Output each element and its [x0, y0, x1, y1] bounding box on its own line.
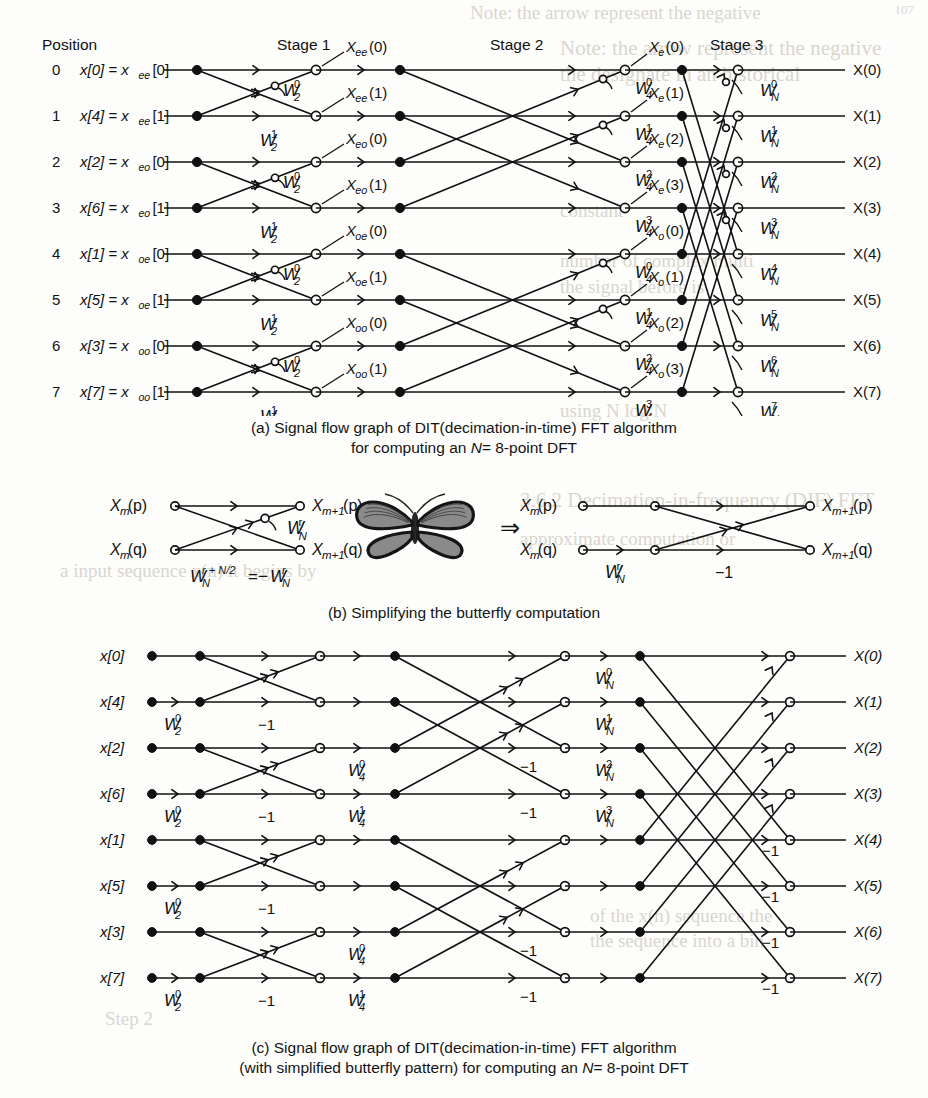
- butterfly-right-input-bottom: Xm(q): [519, 541, 557, 561]
- output-label: X(7): [853, 383, 881, 400]
- twiddle-subscript: 2: [293, 275, 300, 287]
- figure-b-caption: (b) Simplifying the butterfly computatio…: [0, 603, 928, 623]
- figure-c-minus-one: −1: [762, 980, 779, 997]
- twiddle-subscript: 4: [359, 1001, 365, 1013]
- stage3-twiddle-label: WN5: [760, 308, 779, 333]
- twiddle-superscript: 0: [294, 354, 300, 366]
- argument: (0): [369, 222, 387, 239]
- twiddle-superscript: 1: [271, 312, 277, 324]
- argument: (1): [369, 176, 387, 193]
- output-label: X(3): [853, 199, 881, 216]
- input-subscript: oo: [138, 391, 150, 403]
- stage3-twiddle-label: WN6: [760, 354, 779, 379]
- figure-c-output-label: X(4): [853, 831, 882, 848]
- callout-leader: [631, 146, 647, 158]
- stage2-output-label: Xo(1): [648, 268, 684, 288]
- figure-c-minus-one: −1: [762, 934, 779, 951]
- subscript: m+1: [322, 505, 345, 517]
- position-index: 0: [52, 61, 60, 78]
- stage-2-header: Stage 2: [490, 36, 543, 53]
- twiddle-subscript: N: [771, 137, 779, 149]
- twiddle-tick: [605, 311, 612, 319]
- twiddle-subscript: N: [771, 367, 779, 379]
- butterfly-right-output-bottom: Xm+1(q): [821, 541, 873, 561]
- callout-leader: [322, 144, 344, 158]
- stage1-output-label: Xee(1): [345, 84, 387, 104]
- figure-a-caption-line2: for computing an N= 8-point DFT: [0, 438, 928, 458]
- twiddle-superscript: 0: [359, 758, 365, 770]
- argument: (q): [538, 541, 558, 558]
- stage3-twiddle-label: WN0: [760, 78, 779, 103]
- twiddle-superscript: 7: [771, 400, 777, 412]
- subscript: e: [658, 184, 664, 196]
- twiddle-superscript: r: [617, 560, 621, 572]
- figure-c-input-label: x[3]: [99, 923, 125, 940]
- figure-c-svg: x[0]x[4]x[2]x[6]x[1]x[5]x[3]x[7]W20−1W20…: [0, 636, 928, 1028]
- position-index: 1: [52, 107, 60, 124]
- input-expr: x[7] = x: [79, 383, 129, 400]
- twiddle-subscript: 2: [270, 325, 277, 337]
- input-label: x[7] = xoo[1]: [79, 383, 169, 403]
- figure-a-svg: PositionStage 1Stage 2Stage 30x[0] = xee…: [0, 36, 928, 416]
- edge-arrowhead: [765, 667, 773, 674]
- butterfly-left-twiddle: WNr: [287, 516, 308, 542]
- twiddle-subscript: 2: [174, 817, 181, 829]
- twiddle-superscript: 1: [271, 220, 277, 232]
- figure-c-minus-one: −1: [258, 900, 275, 917]
- caption-pre: (with simplified butterfly pattern) for …: [239, 1059, 582, 1076]
- figure-c-input-label: x[6]: [99, 785, 125, 802]
- identity-equals: =−: [248, 567, 268, 586]
- argument: (0): [666, 222, 684, 239]
- butterfly-right-twiddle: WNr: [605, 560, 626, 586]
- figure-c-input-label: x[7]: [99, 969, 125, 986]
- argument: (q): [128, 541, 148, 558]
- figure-c-stage2-twiddle: W40: [348, 758, 366, 783]
- figure-c-minus-one: −1: [258, 808, 275, 825]
- figure-c-input-label: x[0]: [99, 647, 125, 664]
- position-index: 4: [52, 245, 60, 262]
- twiddle-subscript: 4: [359, 817, 365, 829]
- figure-c-minus-one: −1: [520, 988, 537, 1005]
- figure-c-minus-one: −1: [258, 716, 275, 733]
- figure-b-butterfly: Xm(p)Xm(q)Xm+1(p)Xm+1(q)WNrWNr + N/2=−WN…: [0, 478, 928, 598]
- twiddle-superscript: r: [299, 516, 303, 528]
- twiddle-superscript: 5: [771, 308, 777, 320]
- twiddle-tick: [732, 402, 742, 416]
- stage-3-header: Stage 3: [710, 36, 763, 53]
- twiddle-superscript: 4: [771, 262, 777, 274]
- figure-c-minus-one: −1: [258, 992, 275, 1009]
- argument: (q): [853, 541, 873, 558]
- argument: (p): [128, 497, 148, 514]
- subscript: eo: [355, 184, 367, 196]
- argument: (2): [666, 314, 684, 331]
- argument: (0): [369, 314, 387, 331]
- stage3-twiddle-label: WN1: [760, 124, 779, 149]
- input-subscript: ee: [138, 115, 150, 127]
- twiddle-identity: WNr + N/2=−WNr: [190, 564, 290, 589]
- twiddle-subscript: N: [606, 725, 614, 737]
- twiddle-subscript: 2: [174, 1001, 181, 1013]
- butterfly-twiddle-node: [261, 514, 269, 522]
- stage1-twiddle-W2-1: W21: [260, 220, 278, 245]
- callout-leader: [631, 54, 647, 66]
- twiddle-subscript: N: [771, 275, 779, 287]
- output-label: X(0): [853, 61, 881, 78]
- callout-leader: [322, 328, 344, 342]
- callout-leader: [631, 192, 647, 204]
- argument: (2): [666, 130, 684, 147]
- twiddle-superscript: 0: [294, 78, 300, 90]
- butterfly-left-input-bottom: Xm(q): [109, 541, 147, 561]
- subscript: m+1: [832, 549, 855, 561]
- subscript: o: [658, 276, 664, 288]
- twiddle-tick: [732, 310, 742, 324]
- twiddle-superscript: 1: [606, 712, 612, 724]
- twiddle-subscript: 4: [359, 955, 365, 967]
- twiddle-subscript: 2: [270, 233, 277, 245]
- stage3-twiddle-label: WN7: [760, 400, 779, 416]
- minus-one-label: −1: [715, 564, 733, 581]
- input-expr: x[2] = x: [79, 153, 129, 170]
- input-expr: x[0] = x: [79, 61, 129, 78]
- figure-c-output-label: X(7): [853, 969, 882, 986]
- butterfly-right-output-node: [806, 546, 814, 554]
- stage2-output-label: Xo(2): [648, 314, 684, 334]
